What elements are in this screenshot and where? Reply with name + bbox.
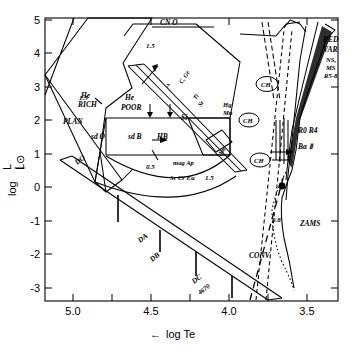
annotation-var: VAR [323,45,337,54]
annotation-si: Si [181,113,188,122]
annotation-db: DB [147,250,162,264]
annotation-sdo: sd O [90,132,106,141]
y-tick-1: 4 [34,47,40,59]
annotation-sr: Sr [197,99,206,108]
sun-symbol [279,183,286,190]
hr-diagram-figure: 5 4 3 2 1 0 -1 -2 -3 log L L⊙ 5.0 4.5 4.… [0,0,354,352]
annotation-r58: R5-8 [323,72,338,79]
x-tick-0: 5.0 [65,305,80,317]
y-tick-5: 0 [34,181,40,193]
x-axis-tick-labels: 5.0 4.5 4.0 3.5 [65,305,314,317]
y-axis-title-den: L⊙ [14,155,26,170]
annotation-mass-15b: 1.5 [146,42,155,50]
annotation-zams: ZAMS [299,219,320,228]
annotation-red: RED [322,35,339,44]
y-axis-tick-labels: 5 4 3 2 1 0 -1 -2 -3 [30,14,40,294]
annotation-mn: Mn [222,109,233,116]
y-axis-title: log L L⊙ [1,155,26,196]
wd-upper [60,160,268,300]
wd-cap-right [268,298,282,300]
x-tick-1: 4.5 [143,305,158,317]
annotation-c-ge: C, Ge [178,69,191,84]
y-tick-6: -1 [30,215,40,227]
annotation-ch-3: CH [254,157,264,164]
annotation-plan: PLAN [63,117,83,126]
y-tick-0: 5 [34,14,40,26]
annotation-mass-05: 0.5 [146,163,155,171]
annotation-mass-7: 7 [166,82,170,90]
annotation-ba2: Ba Ⅱ [297,142,314,151]
annotation-hg: Hg [222,101,232,108]
annotation-cno: CN O [160,18,178,27]
x-tick-2: 4.0 [221,305,236,317]
annotation-he-2: He [124,93,135,102]
x-axis-arrow: ← [150,328,161,340]
annotation-mass-15a: 1.5 [79,94,88,102]
x-tick-3: 3.5 [299,305,314,317]
x-axis-title-label: log Te [166,328,195,340]
ro-r4-lines [276,118,288,164]
annotation-mass-15c: 1.5 [205,174,214,182]
x-axis-title: ← log Te [150,328,195,340]
y-axis-title-num: L [1,164,13,170]
hr-diagram-canvas: 5 4 3 2 1 0 -1 -2 -3 log L L⊙ 5.0 4.5 4.… [0,0,354,352]
y-tick-3: 2 [34,114,40,126]
annotation-ch-1: CH [261,81,271,88]
annotation-r0-r4: R0 R4 [297,126,318,135]
annotation-4670: 4670 [196,282,212,297]
annotation-mag-ap: mag Ap [173,159,195,166]
y-tick-2: 3 [34,81,40,93]
wd-cap-left [60,156,72,160]
annotation-hb: HB [156,132,168,141]
y-axis-title-log: log [6,181,18,196]
annotation-ti: Ti [192,93,200,101]
arc-lower [95,176,236,197]
annotation-ms: MS [325,64,336,71]
annotation-srcreu: Sr Cr Eu [170,174,195,181]
annotation-mass-08: 0.8 [272,216,281,224]
annotation-ch-2: CH [243,117,253,124]
annotation-poor: POOR [121,103,141,112]
y-tick-7: -2 [30,248,40,260]
annotation-da: DA [135,231,150,245]
annotation-ns: NS, [325,56,336,63]
annotation-conv: CONV [249,251,271,260]
y-tick-4: 1 [34,148,40,160]
chimney [284,20,306,32]
region-planetary-nebulae [45,18,152,182]
y-tick-8: -3 [30,282,40,294]
annotation-sdb: sd B [127,132,142,141]
main-sequence-lower [144,64,247,170]
annotation-dc: DC [189,271,204,286]
